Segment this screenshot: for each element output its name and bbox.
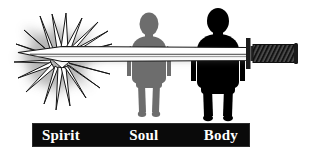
label-bar: Spirit Soul Body xyxy=(32,123,250,147)
sword-pommel xyxy=(294,43,298,64)
label-soul: Soul xyxy=(129,128,158,143)
label-body: Body xyxy=(204,128,238,143)
spirit-soul-body-diagram: Spirit Soul Body xyxy=(0,0,311,153)
sword xyxy=(18,38,298,69)
label-spirit: Spirit xyxy=(42,128,80,143)
sword-crossguard xyxy=(246,38,251,69)
sword-grip xyxy=(253,45,295,63)
